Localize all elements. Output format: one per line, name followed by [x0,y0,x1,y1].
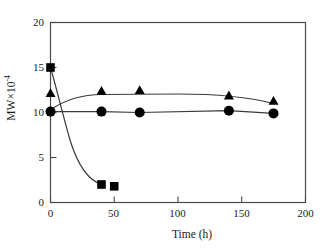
circle-marker-4 [269,108,279,118]
x-tick-marks [51,197,306,203]
x-tick-label-0: 0 [36,208,65,219]
triangle-marker-1 [97,86,107,95]
triangle-marker-2 [135,85,145,94]
y-axis-title-base: MW×10 [5,82,17,121]
x-tick-label-150: 150 [227,208,256,219]
series-triangle [46,85,279,110]
y-tick-label-0: 0 [22,197,44,208]
square-marker-1 [97,180,106,189]
circle-marker-0 [46,107,56,117]
triangle-marker-3 [224,91,234,100]
chart-figure: 0 5 10 15 20 0 50 100 150 200 Time (h) M… [0,0,330,249]
triangle-series-line [51,94,274,110]
series-square [46,63,118,190]
square-marker-0 [46,63,55,72]
y-tick-label-5: 5 [22,152,44,163]
x-tick-label-200: 200 [291,208,320,219]
triangle-marker-4 [269,96,279,105]
x-tick-label-100: 100 [163,208,192,219]
circle-marker-3 [224,106,234,116]
triangle-marker-0 [46,88,56,97]
square-marker-2 [110,182,119,191]
y-axis-title-exponent: -4 [3,75,12,81]
circle-series-line [51,111,274,114]
square-series-line [51,68,102,185]
circle-marker-2 [135,108,145,118]
x-tick-label-50: 50 [99,208,128,219]
y-axis-title: MW×10-4 [5,63,17,133]
x-axis-title: Time (h) [172,228,212,240]
y-tick-label-20: 20 [22,17,44,28]
y-tick-label-10: 10 [22,107,44,118]
y-tick-label-15: 15 [22,62,44,73]
series-circle [46,106,279,119]
circle-marker-1 [97,107,107,117]
